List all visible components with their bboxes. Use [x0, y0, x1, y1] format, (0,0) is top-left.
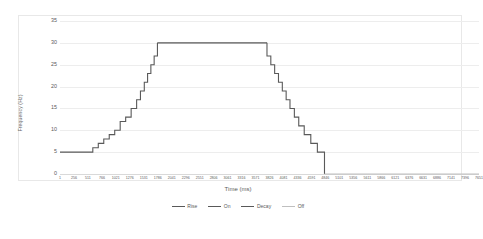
x-tick-label: 3061	[224, 177, 232, 181]
x-tick-label: 5866	[377, 177, 385, 181]
legend-swatch-icon	[241, 206, 254, 208]
y-tick-label: 35	[51, 18, 57, 23]
series-line-decay	[267, 43, 325, 174]
x-tick-label: 3571	[252, 177, 260, 181]
x-tick-label: 7651	[475, 177, 483, 181]
x-tick-label: 5356	[349, 177, 357, 181]
x-tick-label: 4591	[307, 177, 315, 181]
legend-item-on[interactable]: On	[208, 204, 230, 209]
y-tick-label: 30	[51, 40, 57, 45]
x-tick-label: 2296	[182, 177, 190, 181]
y-tick-label: 15	[51, 106, 57, 111]
chart-legend: RiseOnDecayOff	[0, 204, 476, 209]
x-tick-label: 6886	[433, 177, 441, 181]
legend-item-decay[interactable]: Decay	[241, 204, 271, 209]
legend-label: Decay	[257, 204, 271, 209]
x-tick-label: 1786	[154, 177, 162, 181]
chart-plot-frame: Frequency (Hz) 05101520253035 1256511766…	[18, 15, 462, 181]
x-tick-label: 256	[71, 177, 77, 181]
y-tick-label: 10	[51, 128, 57, 133]
legend-label: On	[224, 204, 231, 209]
x-tick-label: 6631	[419, 177, 427, 181]
x-tick-label: 5101	[335, 177, 343, 181]
y-tick-label: 0	[54, 171, 57, 176]
x-axis-title: Time (ms)	[0, 186, 476, 192]
x-tick-label: 4846	[321, 177, 329, 181]
y-tick-label: 25	[51, 62, 57, 67]
x-tick-label: 7141	[447, 177, 455, 181]
legend-swatch-icon	[172, 206, 185, 208]
x-tick-label: 3316	[238, 177, 246, 181]
y-tick-label: 20	[51, 84, 57, 89]
x-tick-label: 511	[85, 177, 91, 181]
x-tick-label: 4336	[293, 177, 301, 181]
x-tick-label: 4081	[279, 177, 287, 181]
y-tick-label: 5	[54, 149, 57, 154]
x-tick-label: 2041	[168, 177, 176, 181]
legend-swatch-icon	[282, 206, 295, 208]
x-tick-label: 1276	[126, 177, 134, 181]
legend-item-rise[interactable]: Rise	[172, 204, 198, 209]
x-tick-label: 766	[99, 177, 105, 181]
legend-swatch-icon	[208, 206, 221, 208]
x-tick-label: 2806	[210, 177, 218, 181]
x-tick-label: 1531	[140, 177, 148, 181]
x-tick-label: 6376	[405, 177, 413, 181]
x-tick-label: 1	[59, 177, 61, 181]
x-tick-label: 1021	[112, 177, 120, 181]
x-tick-label: 6121	[391, 177, 399, 181]
plot-area: 05101520253035 1256511766102112761531178…	[60, 21, 479, 174]
legend-item-off[interactable]: Off	[282, 204, 304, 209]
legend-label: Off	[298, 204, 305, 209]
x-tick-label: 5611	[363, 177, 371, 181]
x-tick-label: 2551	[196, 177, 204, 181]
y-axis-title: Frequency (Hz)	[17, 68, 23, 158]
legend-label: Rise	[187, 204, 197, 209]
x-tick-label: 3826	[266, 177, 274, 181]
series-line-rise	[60, 43, 157, 152]
x-tick-label: 7396	[461, 177, 469, 181]
series-traces	[60, 21, 479, 174]
